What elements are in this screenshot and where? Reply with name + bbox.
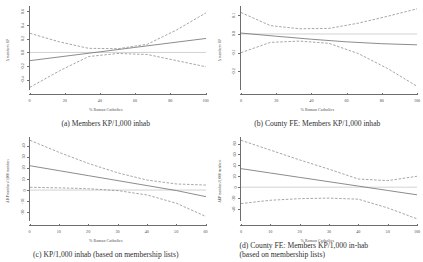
panel-c-x-tick-mark: [206, 224, 207, 227]
panel-c-series-fit: [30, 166, 206, 197]
panel-b-y-tick: -0.2: [231, 68, 236, 74]
panel-d-caption-line2: (based on membership lists): [240, 250, 423, 259]
panel-d-x-tick-mark: [388, 224, 389, 227]
panel-b-series-ci_lower: [241, 41, 417, 86]
panel-d: ΔKP members/1,000 members 806040200-20-4…: [212, 131, 423, 262]
panel-d-x-tick: 50: [386, 228, 390, 236]
panel-d-x-tick-mark: [300, 224, 301, 227]
panel-d-x-tick-labels: 01020304050100: [241, 228, 417, 236]
panel-c-x-tick: 50: [174, 228, 178, 236]
panel-d-plot-area: [241, 137, 417, 221]
panel-c-y-tick-labels: 403020100-10-20: [9, 137, 26, 221]
panel-b-x-tick-mark: [241, 93, 242, 96]
panel-c-x-tick-mark: [59, 224, 60, 227]
panel-b-x-tick-mark: [417, 93, 418, 96]
panel-c-caption: (c) KP/1,000 inhab (based on membership …: [0, 250, 212, 259]
panel-a-x-tick: 100: [202, 97, 208, 105]
panel-a-y-tick-labels: 0.60.40.20.0-0.2-0.4: [9, 6, 26, 90]
panel-b-x-axis-title: % Roman Catholics: [212, 107, 423, 112]
panel-c-x-tick: 20: [86, 228, 90, 236]
panel-a-x-tick-mark: [65, 93, 66, 96]
panel-c-x-tick-mark: [30, 224, 31, 227]
panel-a: Δ members KP 0.60.40.20.0-0.2-0.4 020406…: [0, 0, 212, 131]
panel-d-x-tick: 40: [356, 228, 360, 236]
panel-c-x-tick: 10: [57, 228, 61, 236]
panel-d-series-ci_lower: [241, 198, 417, 219]
panel-d-x-tick-mark: [241, 224, 242, 227]
panel-a-x-axis-line: [29, 94, 206, 95]
panel-a-x-tick: 60: [133, 97, 137, 105]
panel-d-y-tick-labels: 806040200-20-40: [221, 137, 238, 221]
panel-b-x-tick-mark: [276, 93, 277, 96]
panel-a-x-tick: 40: [98, 97, 102, 105]
panel-a-y-tick: -0.2: [19, 63, 24, 69]
panel-a-plot-area: [30, 6, 206, 90]
panel-c-x-tick: 30: [115, 228, 119, 236]
panel-a-x-tick-mark: [206, 93, 207, 96]
panel-d-x-tick-mark: [417, 224, 418, 227]
panel-d-caption-line1: (d) County FE: Members KP/1,000 in-hab: [240, 241, 369, 250]
panel-c: Δ KP members/1,000 members 403020100-10-…: [0, 131, 212, 262]
panel-d-x-tick: 100: [414, 228, 420, 236]
panel-c-x-tick-mark: [118, 224, 119, 227]
panel-a-x-tick-mark: [30, 93, 31, 96]
panel-b-x-tick-mark: [311, 93, 312, 96]
panel-c-series-ci_lower: [30, 187, 206, 216]
panel-d-x-tick: 30: [327, 228, 331, 236]
panel-c-x-tick: 40: [145, 228, 149, 236]
panel-b-x-axis-line: [240, 94, 417, 95]
panel-c-series-ci_upper: [30, 140, 206, 185]
panel-c-x-tick-mark: [88, 224, 89, 227]
panel-b-x-tick-labels: 020406080100: [241, 97, 417, 105]
panel-a-x-tick: 80: [168, 97, 172, 105]
panel-b-series-ci_upper: [241, 9, 417, 29]
panel-c-x-axis-title: % Roman Catholics: [0, 238, 212, 243]
panel-a-x-tick-labels: 020406080100: [30, 97, 206, 105]
panel-b-x-tick-mark: [347, 93, 348, 96]
panel-a-x-tick: 20: [63, 97, 67, 105]
panel-b-x-tick: 60: [345, 97, 349, 105]
panel-c-x-tick-mark: [147, 224, 148, 227]
panel-b-x-tick: 80: [380, 97, 384, 105]
panel-d-x-tick: 20: [298, 228, 302, 236]
panel-c-plot-area: [30, 137, 206, 221]
panel-b-x-tick: 20: [274, 97, 278, 105]
panel-b: Δ members KP 0.10.0-0.1-0.2 020406080100…: [212, 0, 423, 131]
panel-c-x-tick-mark: [176, 224, 177, 227]
panel-c-x-tick: 60: [203, 228, 207, 236]
panel-d-x-tick: 10: [268, 228, 272, 236]
panel-c-x-tick: 0: [28, 228, 30, 236]
panel-d-series-ci_upper: [241, 140, 417, 180]
panel-a-series-fit: [30, 38, 206, 60]
panel-b-y-tick-labels: 0.10.0-0.1-0.2: [221, 6, 238, 90]
panel-a-x-tick: 0: [28, 97, 30, 105]
panel-d-x-tick: 0: [240, 228, 242, 236]
panel-d-x-tick-mark: [358, 224, 359, 227]
panel-a-series-ci_upper: [30, 13, 206, 49]
panel-d-caption: (d) County FE: Members KP/1,000 in-hab (…: [212, 241, 423, 259]
panel-a-x-tick-mark: [100, 93, 101, 96]
panel-a-x-tick-mark: [170, 93, 171, 96]
panel-a-y-tick: -0.4: [19, 77, 24, 83]
panel-d-x-tick-mark: [329, 224, 330, 227]
panel-a-caption: (a) Members KP/1,000 inhab: [0, 119, 212, 128]
panel-a-x-tick-mark: [135, 93, 136, 96]
panel-b-caption: (b) County FE: Members KP/1,000 inhab: [212, 119, 423, 128]
panel-b-x-tick: 40: [309, 97, 313, 105]
panel-c-x-tick-labels: 0102030405060: [30, 228, 206, 236]
panel-b-x-tick: 100: [414, 97, 420, 105]
panel-b-x-tick-mark: [382, 93, 383, 96]
panel-d-series-fit: [241, 169, 417, 195]
panel-a-x-axis-title: % Roman Catholics: [0, 107, 212, 112]
panel-a-series-ci_lower: [30, 53, 206, 87]
figure-four-panel-regression: Δ members KP 0.60.40.20.0-0.2-0.4 020406…: [0, 0, 423, 262]
panel-b-x-tick: 0: [240, 97, 242, 105]
panel-b-series-fit: [241, 33, 417, 45]
panel-b-y-tick: -0.1: [231, 49, 236, 55]
panel-b-plot-area: [241, 6, 417, 90]
panel-d-x-tick-mark: [270, 224, 271, 227]
